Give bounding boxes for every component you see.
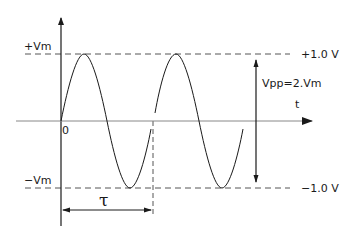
sine-wave-diagram: +Vm −Vm +1.0 V −1.0 V Vpp=2.Vm t 0 τ xyxy=(0,0,350,238)
vpp-label: Vpp=2.Vm xyxy=(262,77,321,90)
period-label: τ xyxy=(99,190,108,210)
minus-vm-label: −Vm xyxy=(24,174,51,187)
plus-vm-label: +Vm xyxy=(24,40,51,53)
origin-label: 0 xyxy=(62,124,69,137)
time-axis-arrow-icon xyxy=(302,117,313,125)
plus-1v-label: +1.0 V xyxy=(301,48,339,61)
minus-1v-label: −1.0 V xyxy=(301,182,339,195)
time-axis-label: t xyxy=(295,98,300,111)
